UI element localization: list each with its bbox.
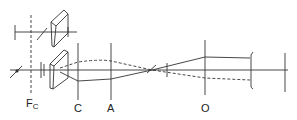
label-c: C: [74, 103, 82, 114]
label-o: O: [201, 103, 210, 114]
upper-mirror-mark: [37, 28, 47, 40]
label-fc: FC: [26, 98, 39, 111]
optical-diagram: FC C A O: [0, 0, 297, 120]
upper-prism: [51, 10, 68, 47]
diagram-canvas: [0, 0, 297, 120]
solid-ray: [60, 57, 250, 81]
lower-prism: [50, 50, 68, 89]
label-a: A: [107, 103, 114, 114]
curved-mirror: [251, 52, 253, 89]
source-point: [16, 70, 18, 72]
